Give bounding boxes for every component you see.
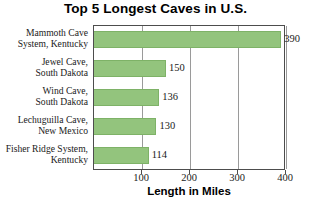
bar-row bbox=[94, 113, 284, 142]
x-tick-label: 200 bbox=[169, 172, 209, 183]
x-tick-label: 400 bbox=[265, 172, 305, 183]
category-label-line: Mammoth Cave bbox=[0, 27, 88, 38]
bar bbox=[94, 118, 156, 135]
bar-row bbox=[94, 142, 284, 171]
bar bbox=[94, 147, 149, 164]
bar-chart: Top 5 Longest Caves in U.S. Mammoth Cave… bbox=[0, 0, 311, 216]
category-label-line: Lechuguilla Cave, bbox=[0, 114, 88, 125]
bar-value-label: 136 bbox=[158, 88, 178, 105]
bar-row bbox=[94, 26, 284, 55]
bar-row bbox=[94, 84, 284, 113]
bar bbox=[94, 89, 159, 106]
bar-value-label: 390 bbox=[280, 30, 300, 47]
category-label-line: South Dakota bbox=[0, 96, 88, 107]
category-label-line: Fisher Ridge System, bbox=[0, 143, 88, 154]
category-label-line: System, Kentucky bbox=[0, 38, 88, 49]
bar bbox=[94, 60, 166, 77]
category-label: Lechuguilla Cave,New Mexico bbox=[0, 114, 88, 136]
bar bbox=[94, 31, 281, 48]
category-label-line: New Mexico bbox=[0, 125, 88, 136]
bar-value-label: 114 bbox=[148, 146, 167, 163]
category-label-line: Wind Cave, bbox=[0, 85, 88, 96]
category-label: Mammoth CaveSystem, Kentucky bbox=[0, 27, 88, 49]
bar-value-label: 150 bbox=[165, 59, 185, 76]
plot-area bbox=[93, 25, 285, 170]
x-tick-label: 100 bbox=[121, 172, 161, 183]
category-label-line: Jewel Cave, bbox=[0, 56, 88, 67]
category-label-line: South Dakota bbox=[0, 67, 88, 78]
category-label: Jewel Cave,South Dakota bbox=[0, 56, 88, 78]
category-label: Fisher Ridge System,Kentucky bbox=[0, 143, 88, 165]
category-label-line: Kentucky bbox=[0, 154, 88, 165]
gridline bbox=[286, 26, 287, 169]
bar-value-label: 130 bbox=[155, 117, 175, 134]
x-axis-title: Length in Miles bbox=[93, 185, 285, 197]
x-tick-label: 300 bbox=[217, 172, 257, 183]
bar-row bbox=[94, 55, 284, 84]
chart-title: Top 5 Longest Caves in U.S. bbox=[0, 1, 311, 16]
category-label: Wind Cave,South Dakota bbox=[0, 85, 88, 107]
